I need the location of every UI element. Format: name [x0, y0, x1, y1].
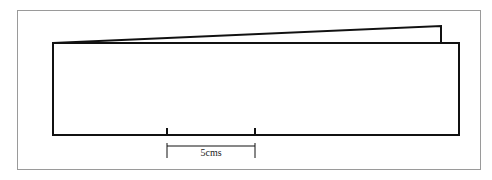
folded-sheet-diagram: 5cms [0, 0, 492, 180]
back-sheet-outline [53, 26, 441, 43]
front-sheet-outline [53, 43, 459, 135]
scale-label: 5cms [200, 147, 221, 158]
